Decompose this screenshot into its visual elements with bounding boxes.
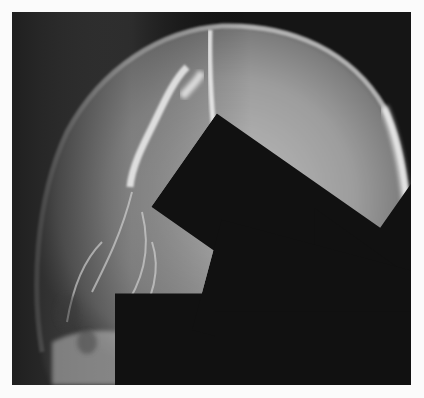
arrow-icon <box>215 182 411 385</box>
panel-label: A <box>230 369 242 385</box>
radiograph-image: A <box>12 12 411 385</box>
